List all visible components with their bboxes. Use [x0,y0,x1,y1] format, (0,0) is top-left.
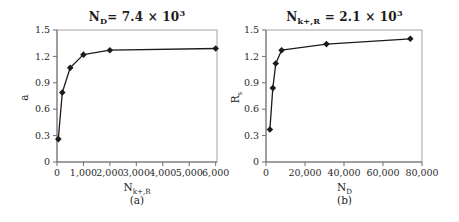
y-tick-label: 0.3 [35,130,50,141]
data-series-line [58,49,215,140]
y-tick-label: 0.9 [35,77,50,88]
chart-b-title-base: N [286,10,297,24]
x-tick-label: 20,000 [288,167,321,178]
x-tick-label: 0 [263,167,269,178]
x-tick-label: 80,000 [405,167,438,178]
x-tick-label: 2,000 [96,167,123,178]
data-point-diamond-marker [55,136,62,143]
plot-frame [266,30,422,162]
data-series-line [270,39,410,130]
y-tick-label: 0.9 [244,77,259,88]
chart-b-ylabel-base: R [229,95,241,103]
y-tick-label: 0.6 [244,103,259,114]
chart-a-title-value: = 7.4 × 10 [107,10,179,24]
chart-a-title-exponent: 3 [179,8,185,18]
data-point-diamond-marker [59,89,66,96]
dual-saturation-curves-figure: 01,0002,0003,0004,0005,0006,00000.30.60.… [0,0,459,222]
chart-b-title-exponent: 3 [397,8,403,18]
data-point-diamond-marker [270,85,277,92]
chart-panel-b: 020,00040,00060,00080,00000.30.60.91.21.… [230,0,459,222]
chart-b-caption: (b) [230,194,459,206]
chart-b-y-axis-label: Rs [229,92,244,104]
x-tick-label: 1,000 [70,167,97,178]
chart-a-y-axis-label: a [18,94,33,100]
chart-a-caption: (a) [17,194,257,206]
chart-b-title-subscript: k+,R [297,16,320,26]
chart-b-ylabel-subscript: s [235,92,244,96]
data-point-diamond-marker [212,45,219,52]
chart-b-title: Nk+,R = 2.1 × 103 [230,8,459,26]
x-tick-label: 40,000 [327,167,360,178]
data-point-diamond-marker [267,126,274,133]
data-point-diamond-marker [107,47,114,54]
x-tick-label: 60,000 [366,167,399,178]
chart-a-ylabel-base: a [18,94,30,100]
x-tick-label: 6,000 [202,167,229,178]
x-tick-label: 5,000 [176,167,203,178]
data-point-diamond-marker [407,36,414,43]
x-tick-label: 3,000 [123,167,150,178]
y-tick-label: 0 [44,156,50,167]
data-point-diamond-marker [272,60,279,67]
chart-b-title-value: = 2.1 × 10 [320,10,397,24]
y-tick-label: 1.2 [244,51,259,62]
chart-a-title: ND= 7.4 × 103 [17,8,257,26]
chart-panel-a: 01,0002,0003,0004,0005,0006,00000.30.60.… [0,0,240,222]
y-tick-label: 0 [253,156,259,167]
x-tick-label: 0 [54,167,60,178]
x-tick-label: 4,000 [149,167,176,178]
y-tick-label: 0.6 [35,103,50,114]
y-tick-label: 0.3 [244,130,259,141]
y-tick-label: 1.2 [35,51,50,62]
chart-a-title-base: N [89,10,100,24]
chart-b-xlabel-base: N [337,181,346,193]
chart-a-xlabel-base: N [123,181,132,193]
data-point-diamond-marker [278,47,285,54]
data-point-diamond-marker [323,41,330,48]
